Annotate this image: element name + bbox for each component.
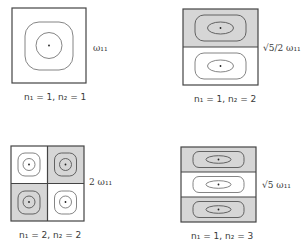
- mode-1-2-frequency: √5/2 ω₁₁: [263, 43, 301, 53]
- mode-1-1-diagram: [12, 8, 86, 83]
- mode-1-3-caption: n₁ = 1, n₂ = 3: [191, 231, 253, 241]
- mode-1-1-caption: n₁ = 1, n₂ = 1: [24, 92, 86, 102]
- mode-2-2-caption: n₁ = 2, n₂ = 2: [19, 230, 81, 240]
- mode-1-2-diagram: [183, 9, 258, 85]
- mode-1-3-frequency: √5 ω₁₁: [262, 180, 291, 190]
- mode-1-2-caption: n₁ = 1, n₂ = 2: [194, 94, 256, 104]
- mode-1-1-frequency: ω₁₁: [93, 43, 108, 53]
- membrane-modes-figure: [0, 0, 302, 247]
- mode-2-2-frequency: 2 ω₁₁: [89, 177, 112, 187]
- mode-1-3-diagram: [181, 147, 256, 222]
- mode-2-2-diagram: [11, 146, 84, 221]
